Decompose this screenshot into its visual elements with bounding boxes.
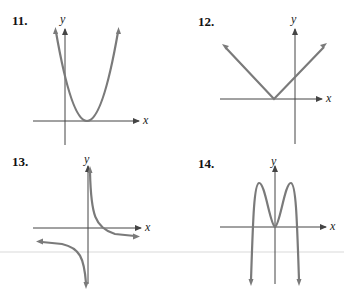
curve-arrow-icon	[116, 27, 121, 34]
x-axis-label: x	[145, 220, 150, 235]
curve-arrow-icon	[249, 279, 254, 286]
graph-14	[220, 166, 326, 286]
y-axis-label: y	[291, 12, 296, 27]
curve-arrow-icon	[53, 27, 58, 34]
y-axis-label: y	[60, 12, 65, 27]
problem-number: 12.	[198, 14, 214, 30]
x-axis-label: x	[330, 219, 335, 234]
curve-arrow-icon	[84, 282, 89, 289]
x-axis-label: x	[326, 91, 331, 106]
hyperbola-branch-q1	[90, 172, 135, 236]
absolute-value-curve	[226, 47, 324, 99]
graph-13	[33, 166, 141, 289]
curve-arrow-icon	[297, 279, 302, 286]
curve-arrow-icon	[36, 239, 43, 245]
problem-number: 13.	[12, 154, 28, 170]
problem-number: 14.	[198, 156, 214, 172]
graph-12	[220, 29, 327, 144]
problem-number: 11.	[12, 13, 28, 29]
x-axis-label: x	[143, 113, 148, 128]
hyperbola-branch-q3	[42, 242, 86, 283]
y-axis-label: y	[271, 154, 276, 169]
curve-arrow-icon	[320, 43, 327, 49]
graph-11	[33, 26, 139, 145]
curve-arrow-icon	[133, 234, 140, 240]
graphs-canvas	[0, 0, 344, 295]
y-axis-label: y	[84, 152, 89, 167]
